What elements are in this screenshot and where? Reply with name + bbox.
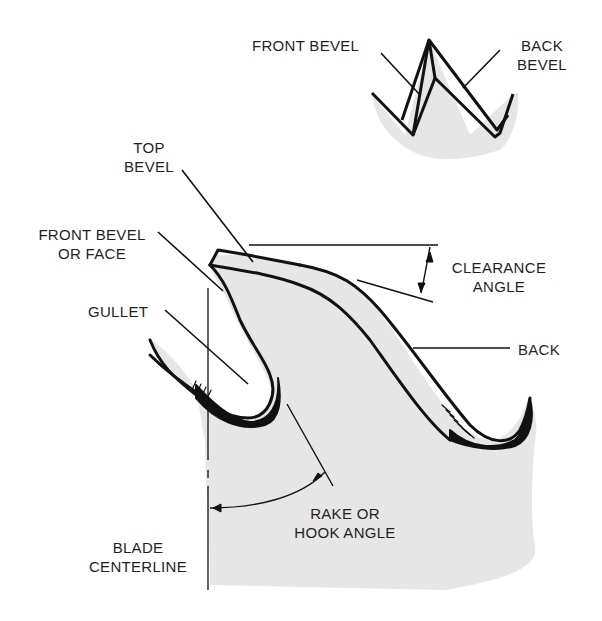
- label-front-bevel-face-line2: OR FACE: [28, 244, 156, 263]
- label-rake-angle-line2: HOOK ANGLE: [280, 523, 410, 542]
- inset-tooth-detail: [372, 40, 518, 159]
- label-top-bevel-line2: BEVEL: [114, 157, 184, 176]
- leader-front-bevel: [381, 53, 420, 95]
- label-blade-centerline-line2: CENTERLINE: [82, 557, 194, 576]
- saw-tooth-diagram: FRONT BEVEL BACK BEVEL TOP BEVEL FRONT B…: [0, 0, 602, 621]
- label-front-bevel: FRONT BEVEL: [252, 36, 359, 55]
- label-gullet: GULLET: [88, 302, 148, 321]
- label-rake-angle: RAKE OR HOOK ANGLE: [280, 504, 410, 542]
- label-back-bevel: BACK BEVEL: [512, 36, 572, 74]
- label-clearance-angle-line2: ANGLE: [444, 277, 554, 296]
- label-top-bevel: TOP BEVEL: [114, 138, 184, 176]
- leader-back-bevel: [463, 50, 500, 88]
- label-back-bevel-line1: BACK: [512, 36, 572, 55]
- leader-top-bevel: [182, 170, 253, 262]
- label-back-bevel-line2: BEVEL: [512, 55, 572, 74]
- label-top-bevel-line1: TOP: [114, 138, 184, 157]
- label-front-bevel-face-line1: FRONT BEVEL: [28, 225, 156, 244]
- label-blade-centerline-line1: BLADE: [82, 538, 194, 557]
- label-clearance-angle-line1: CLEARANCE: [444, 258, 554, 277]
- label-blade-centerline: BLADE CENTERLINE: [82, 538, 194, 576]
- label-clearance-angle: CLEARANCE ANGLE: [444, 258, 554, 296]
- label-front-bevel-face: FRONT BEVEL OR FACE: [28, 225, 156, 263]
- label-rake-angle-line1: RAKE OR: [280, 504, 410, 523]
- label-back: BACK: [518, 340, 560, 359]
